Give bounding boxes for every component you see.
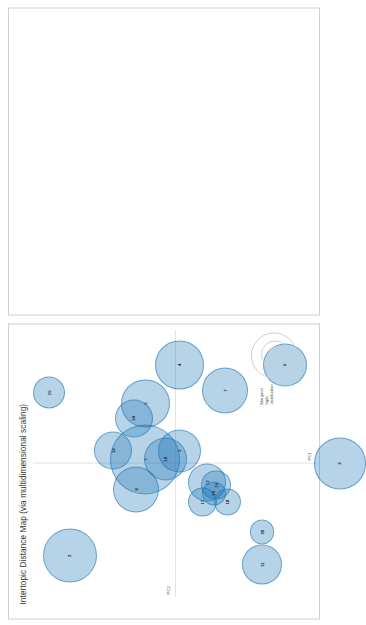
- topic-bubble-10[interactable]: 10: [144, 437, 187, 480]
- pc1-axis-label: PC1: [307, 451, 312, 460]
- topic-bubble-3[interactable]: 3: [314, 437, 365, 488]
- pc2-axis-label: PC2: [166, 585, 171, 594]
- topic-bubble-15[interactable]: 15: [33, 376, 65, 408]
- topic-bubble-11[interactable]: 11: [242, 544, 283, 585]
- topic-bubble-20[interactable]: 20: [250, 520, 274, 544]
- marginal-arc-small: [268, 346, 284, 362]
- intertopic-distance-panel: Intertopic Distance Map (via multidimens…: [8, 323, 320, 619]
- topic-bubble-7[interactable]: 7: [202, 367, 248, 413]
- topic-bubble-2[interactable]: 2: [43, 528, 97, 582]
- salient-terms-panel: Top-40 Most Salient Terms 05001,0001,500…: [8, 7, 320, 315]
- topic-bubble-13[interactable]: 13: [94, 431, 132, 469]
- topic-bubble-14[interactable]: 14: [115, 399, 153, 437]
- topic-bubble-4[interactable]: 4: [155, 340, 204, 389]
- topic-bubble-19[interactable]: 19: [202, 481, 226, 505]
- marginal-legend-label: Marginal topic distribution: [259, 384, 274, 404]
- intertopic-map-title: Intertopic Distance Map (via multidimens…: [19, 403, 28, 604]
